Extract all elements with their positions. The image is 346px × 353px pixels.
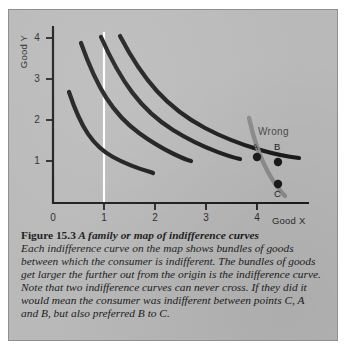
indifference-curve-chart: 4 3 2 1 0 1 2 3 4 Good Y Good X Wrong A … xyxy=(9,10,337,225)
y-tick-label-3: 3 xyxy=(29,73,45,84)
figure-screenshot: 4 3 2 1 0 1 2 3 4 Good Y Good X Wrong A … xyxy=(0,0,346,353)
point-a-label: A xyxy=(252,141,258,152)
caption-title-text: A family or map of indifference curves xyxy=(78,229,259,241)
y-axis-label: Good Y xyxy=(18,29,29,75)
caption-body: Each indifference curve on the map shows… xyxy=(21,242,321,320)
x-tick-label-1: 1 xyxy=(96,212,112,223)
chart-canvas xyxy=(9,10,337,225)
y-tick-label-4: 4 xyxy=(29,32,45,43)
caption-figure-number: Figure 15.3 xyxy=(21,229,76,241)
x-tick-label-4: 4 xyxy=(249,212,265,223)
point-b-marker xyxy=(274,158,282,166)
point-b-label: B xyxy=(274,141,280,152)
x-tick-label-0: 0 xyxy=(45,212,61,223)
figure-panel: 4 3 2 1 0 1 2 3 4 Good Y Good X Wrong A … xyxy=(8,9,338,341)
figure-caption: Figure 15.3 A family or map of indiffere… xyxy=(21,229,321,320)
x-tick-label-2: 2 xyxy=(147,212,163,223)
y-tick-label-1: 1 xyxy=(29,155,45,166)
point-a-marker xyxy=(253,153,261,161)
indifference-curve-3 xyxy=(101,37,240,159)
y-tick-label-2: 2 xyxy=(29,114,45,125)
point-c-marker xyxy=(274,180,282,188)
x-axis-label: Good X xyxy=(272,215,305,226)
point-c-label: C xyxy=(274,188,281,199)
wrong-annotation-label: Wrong xyxy=(258,126,289,137)
x-tick-label-3: 3 xyxy=(198,212,214,223)
